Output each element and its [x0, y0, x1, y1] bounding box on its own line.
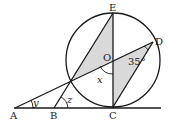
angle-label-y: y	[32, 97, 39, 108]
angle-label-x: x	[97, 74, 103, 85]
label-o: O	[103, 52, 111, 63]
label-a: A	[9, 110, 18, 121]
label-e: E	[109, 2, 116, 13]
label-c: C	[109, 110, 117, 121]
angle-label-z: z	[66, 94, 73, 105]
label-d: D	[155, 36, 163, 47]
angle-label-35: 35°	[128, 56, 146, 67]
geometry-diagram: E D O A B C 35° x y z	[0, 0, 170, 122]
label-b: B	[50, 110, 57, 121]
angle-arc-x	[100, 66, 113, 74]
